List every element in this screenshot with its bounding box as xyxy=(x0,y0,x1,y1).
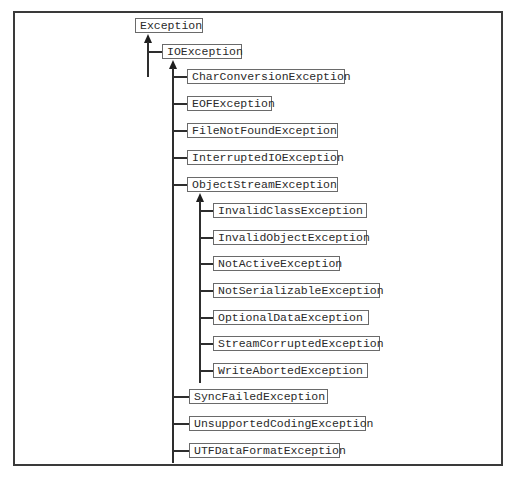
connector-line xyxy=(172,68,174,463)
node-invalidobjectexception: InvalidObjectException xyxy=(213,230,367,245)
connector-line xyxy=(199,343,213,345)
node-notactiveexception: NotActiveException xyxy=(213,256,340,271)
node-streamcorruptedexception: StreamCorruptedException xyxy=(213,336,380,351)
connector-line xyxy=(147,51,162,53)
node-unsupportedcodingexception: UnsupportedCodingException xyxy=(189,416,366,431)
node-filenotfoundexception: FileNotFoundException xyxy=(187,123,338,138)
connector-line xyxy=(199,210,213,212)
node-eofexception: EOFException xyxy=(187,96,272,111)
connector-line xyxy=(172,450,189,452)
node-syncfailedexception: SyncFailedException xyxy=(189,389,328,404)
connector-line xyxy=(199,370,213,372)
node-ioexception: IOException xyxy=(162,44,242,59)
node-invalidclassexception: InvalidClassException xyxy=(213,203,367,218)
node-objectstreamexception: ObjectStreamException xyxy=(187,177,338,192)
connector-line xyxy=(199,201,201,383)
node-writeabortedexception: WriteAbortedException xyxy=(213,363,368,378)
node-notserializableexception: NotSerializableException xyxy=(213,283,380,298)
connector-line xyxy=(172,396,189,398)
connector-line xyxy=(199,290,213,292)
connector-line xyxy=(199,237,213,239)
connector-line xyxy=(199,317,213,319)
connector-line xyxy=(172,130,187,132)
node-exception: Exception xyxy=(135,18,203,33)
node-interruptedioexception: InterruptedIOException xyxy=(187,150,338,165)
node-optionaldataexception: OptionalDataException xyxy=(213,310,369,325)
node-charconversionexception: CharConversionException xyxy=(187,69,345,84)
connector-line xyxy=(172,184,187,186)
connector-line xyxy=(172,423,189,425)
connector-line xyxy=(172,76,187,78)
node-utfdataformatexception: UTFDataFormatException xyxy=(189,443,340,458)
connector-line xyxy=(172,103,187,105)
connector-line xyxy=(172,157,187,159)
connector-line xyxy=(199,263,213,265)
connector-line xyxy=(147,42,149,77)
